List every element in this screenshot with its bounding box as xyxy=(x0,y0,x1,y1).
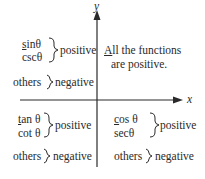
q4-positive-label: positive xyxy=(160,119,196,131)
q3-others-label: others xyxy=(13,150,41,162)
x-axis-label: x xyxy=(187,93,192,105)
q2-positive-label: positive xyxy=(60,44,96,56)
brace-q4-negative xyxy=(146,149,152,163)
q1-line1-rest: ll the functions xyxy=(112,44,181,56)
q3-fn1-rest: an θ xyxy=(21,113,40,125)
q3-negative-label: negative xyxy=(53,150,92,162)
q2-fn1-rest: inθ xyxy=(26,38,40,50)
q2-fn2: cscθ xyxy=(22,51,42,63)
q2-fn1: sinθ xyxy=(22,38,41,50)
brace-q3-positive xyxy=(44,113,53,137)
brace-q4-positive xyxy=(150,113,159,137)
q4-negative-label: negative xyxy=(155,150,194,162)
q3-fn1: tan θ xyxy=(18,113,40,125)
brace-q2-positive xyxy=(49,38,58,62)
q3-fn2: cot θ xyxy=(18,127,40,139)
q4-fn2: secθ xyxy=(114,127,134,139)
q4-fn1: cos θ xyxy=(114,113,138,125)
q1-line1: All the functions xyxy=(104,44,181,56)
brace-q2-negative xyxy=(47,75,53,89)
q3-positive-label: positive xyxy=(55,119,91,131)
brace-q3-negative xyxy=(44,149,50,163)
q1-line2: are positive. xyxy=(111,58,167,70)
q2-others-label: others xyxy=(13,76,41,88)
x-axis-arrow-icon xyxy=(173,97,183,104)
q2-negative-label: negative xyxy=(55,76,94,88)
q4-fn1-rest: os θ xyxy=(119,113,138,125)
q4-others-label: others xyxy=(114,150,142,162)
y-axis-label: y xyxy=(94,0,99,12)
